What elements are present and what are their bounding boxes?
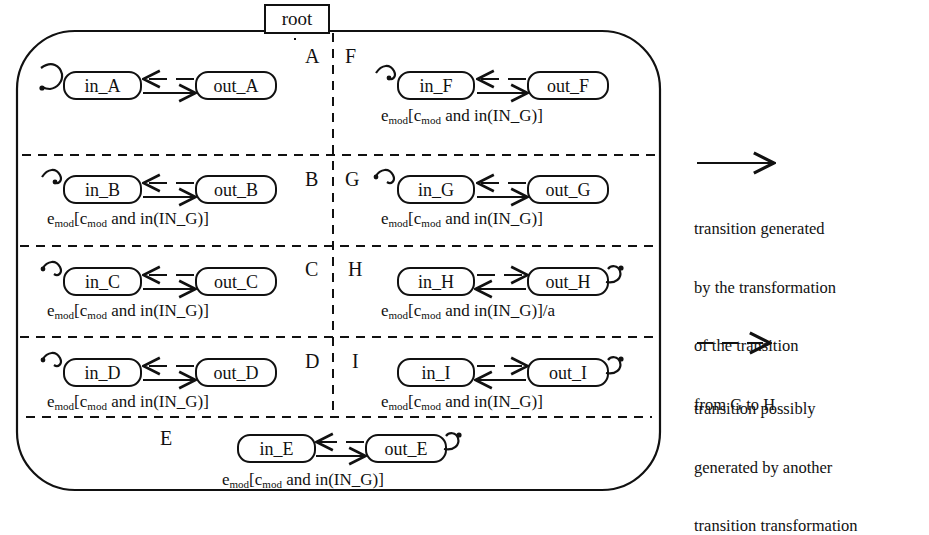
region-letter-H: H [348,259,362,279]
tl-sub2: mod [87,217,107,229]
state-label-in_A: in_A [64,74,141,98]
region-letter-C: C [305,259,318,279]
tl-sub1: mod [230,478,250,490]
transition-label-F: emod[cmod and in(IN_G)] [381,106,543,126]
state-label-in_C: in_C [64,270,141,294]
transition-label-G: emod[cmod and in(IN_G)] [381,209,543,229]
root-box[interactable]: root [264,4,330,34]
tl-sub2: mod [421,309,441,321]
legend-entry-2-text: transition possibly generated by another… [694,360,858,535]
region-letter-F: F [345,46,356,66]
self-loop-dot-in_C [41,267,46,272]
legend-1-line-1: transition generated [694,219,836,239]
tl-sub1: mod [55,217,75,229]
transition-label-C: emod[cmod and in(IN_G)] [47,301,209,321]
region-letter-G: G [345,169,359,189]
transition-label-I: emod[cmod and in(IN_G)] [381,392,543,412]
tl-sub2: mod [87,309,107,321]
state-label-out_C: out_C [196,270,276,294]
tl-sub2: mod [262,478,282,490]
legend-1-line-2: by the transformation [694,278,836,298]
transition-label-B: emod[cmod and in(IN_G)] [47,209,209,229]
region-letter-I: I [352,351,359,371]
state-label-out_B: out_B [196,178,276,202]
state-label-out_F: out_F [528,74,608,98]
tl-mid: and in(IN_G)] [441,106,543,125]
region-letter-D: D [305,351,319,371]
tl-sub1: mod [389,217,409,229]
tl-mid: and in(IN_G)] [107,209,209,228]
tl-sub2: mod [421,114,441,126]
legend-2-line-3: transition transformation [694,516,858,535]
state-label-in_F: in_F [398,74,474,98]
self-loop-dot-in_A [39,85,44,90]
region-letter-E: E [160,428,172,448]
state-label-in_G: in_G [398,178,474,202]
tl-mid: and in(IN_G)] [441,209,543,228]
tl-e: e [47,209,55,228]
state-label-out_G: out_G [528,178,608,202]
tl-sub2: mod [87,400,107,412]
self-loop-dot-out_E [456,432,461,437]
region-letter-A: A [305,46,319,66]
root-box-label: root [282,8,313,30]
transition-label-E: emod[cmod and in(IN_G)] [222,470,384,490]
tl-sub1: mod [55,309,75,321]
self-loop-dot-in_B [53,180,58,185]
tl-mid: and in(IN_G)] [107,301,209,320]
tl-e: e [381,301,389,320]
state-label-out_A: out_A [196,74,276,98]
transition-label-D: emod[cmod and in(IN_G)] [47,392,209,412]
tl-sub1: mod [389,114,409,126]
self-loop-in_A [41,64,62,89]
self-loop-dot-out_H [618,265,623,270]
tl-action: /a [543,301,555,320]
legend-2-line-2: generated by another [694,458,858,478]
state-label-in_B: in_B [64,178,141,202]
tl-sub1: mod [389,400,409,412]
region-letter-B: B [305,169,318,189]
state-label-out_I: out_I [528,361,608,385]
tl-e: e [381,106,389,125]
tl-e: e [47,301,55,320]
tl-e: e [381,209,389,228]
tl-sub2: mod [421,217,441,229]
state-label-out_D: out_D [196,361,276,385]
self-loop-in_B [42,170,61,183]
state-label-in_E: in_E [238,437,315,461]
self-loop-in_F [376,66,395,79]
self-loop-dot-in_G [374,175,379,180]
tl-e: e [381,392,389,411]
tl-mid: and in(IN_G)] [107,392,209,411]
tl-e: e [222,470,230,489]
state-label-in_I: in_I [398,361,474,385]
tl-sub1: mod [55,400,75,412]
legend-1-line-3: of the transition [694,336,836,356]
tl-mid: and in(IN_G)] [441,301,543,320]
transition-label-H: emod[cmod and in(IN_G)]/a [381,301,555,321]
self-loop-dot-in_F [387,76,392,81]
self-loop-dot-out_I [618,356,623,361]
state-label-out_E: out_E [366,437,446,461]
tl-sub2: mod [421,400,441,412]
tl-mid: and in(IN_G)] [282,470,384,489]
legend-2-line-1: transition possibly [694,399,858,419]
state-label-in_D: in_D [64,361,141,385]
state-label-in_H: in_H [398,270,474,294]
tl-e: e [47,392,55,411]
tl-sub1: mod [389,309,409,321]
tl-mid: and in(IN_G)] [441,392,543,411]
self-loop-dot-in_D [41,358,46,363]
state-label-out_H: out_H [528,270,608,294]
